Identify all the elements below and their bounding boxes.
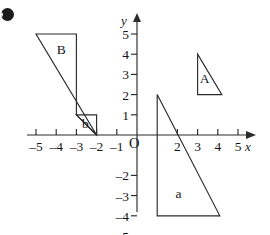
x-axis	[27, 131, 256, 139]
y-tick-label: –4	[115, 209, 130, 224]
x-tick-label: –3	[69, 139, 84, 154]
y-axis	[133, 13, 141, 212]
y-tick-label: –2	[115, 168, 130, 183]
y-tick-label: –5	[115, 229, 130, 235]
triangle-A-label: A	[200, 71, 210, 86]
x-axis-arrow-icon	[246, 131, 256, 139]
x-tick-label: 4	[214, 139, 221, 154]
y-tick-label: 2	[122, 88, 129, 103]
x-tick-label: 3	[194, 139, 201, 154]
triangle-a-label: a	[175, 186, 181, 201]
x-tick-label: –5	[28, 139, 43, 154]
triangle-b-label: b	[82, 116, 89, 131]
triangle-B-label: B	[57, 42, 66, 57]
figure-panel: –5–4–3–2–12345 54321–2–3–4–5 O x y AaBb	[0, 0, 270, 235]
y-tick-label: 3	[122, 67, 129, 82]
coordinate-plane: –5–4–3–2–12345 54321–2–3–4–5 O x y AaBb	[0, 0, 270, 235]
shape-labels: AaBb	[57, 42, 210, 200]
y-tick-label: 1	[122, 108, 129, 123]
x-tick-label: 2	[174, 139, 181, 154]
x-tick-label: 5	[235, 139, 242, 154]
x-tick-label: –1	[109, 139, 124, 154]
x-tick-label: –2	[89, 139, 104, 154]
y-tick-label: 5	[122, 27, 129, 42]
triangle-a	[157, 95, 220, 216]
x-tick-label: –4	[48, 139, 63, 154]
x-axis-label: x	[244, 139, 251, 154]
y-tick-label: –3	[115, 189, 130, 204]
y-axis-arrow-icon	[133, 13, 141, 22]
origin-label: O	[129, 135, 139, 151]
y-tick-label: 4	[122, 47, 129, 62]
y-axis-label: y	[119, 13, 127, 28]
